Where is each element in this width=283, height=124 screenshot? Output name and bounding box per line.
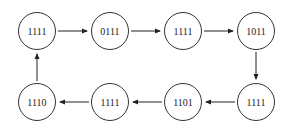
state-node-4: 1011 (237, 12, 275, 50)
state-label: 1111 (247, 97, 266, 108)
state-label: 1111 (101, 97, 120, 108)
state-label: 1111 (28, 26, 47, 37)
state-node-6: 1101 (164, 83, 202, 121)
state-node-8: 1110 (18, 83, 56, 121)
state-label: 1101 (173, 97, 193, 108)
state-label: 1111 (174, 26, 193, 37)
state-node-5: 1111 (237, 83, 275, 121)
state-label: 1110 (27, 97, 46, 108)
state-node-1: 1111 (18, 12, 56, 50)
state-label: 0111 (100, 26, 119, 37)
state-label: 1011 (246, 26, 266, 37)
state-node-7: 1111 (91, 83, 129, 121)
state-node-2: 0111 (91, 12, 129, 50)
state-node-3: 1111 (164, 12, 202, 50)
